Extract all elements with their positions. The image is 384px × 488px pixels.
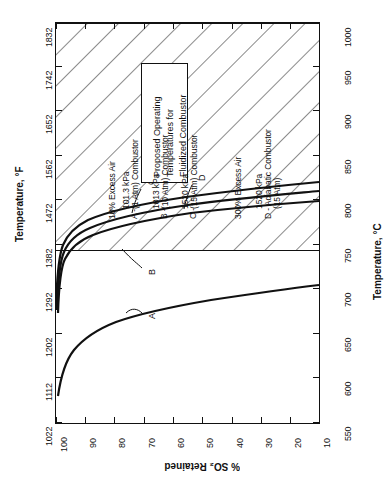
tick-f-1742 [56,66,62,67]
axis-title-fahrenheit: Temperature, °F [14,167,25,243]
ylabel-c-950: 950 [344,71,353,85]
tick-top-100 [56,23,57,29]
legend-b-line2: (10 Atm) Combustor [161,135,170,209]
xlabel-60: 60 [177,438,186,448]
leader-lines [56,23,321,425]
legend-c-prefix: C - [189,208,198,219]
ylabel-c-750: 750 [344,249,353,263]
xlabel-100: 100 [60,437,69,452]
ylabel-f-1742: 1742 [45,71,54,90]
tick-top-30 [261,23,262,29]
tick-bottom-60 [173,417,174,423]
tick-top-20 [290,23,291,29]
ylabel-c-800: 800 [344,204,353,218]
tick-top-70 [144,23,145,29]
tick-f-1112 [56,377,62,378]
legend-group2-heading: 300% Excess Air [234,157,243,219]
ylabel-c-700: 700 [344,293,353,307]
legend-c-line2: (15 Atm) Combustor [190,135,199,209]
tick-bottom-30 [261,417,262,423]
xlabel-20: 20 [294,438,303,448]
xlabel-50: 50 [206,438,215,448]
plot-frame: A B C D Proposed Operating Temperatures … [55,22,320,424]
tick-bottom-20 [290,417,291,423]
tick-top-10 [319,23,320,29]
ylabel-c-550: 550 [344,427,353,441]
annotation-line-3: Fluidized Combustor [178,94,189,177]
tick-c-800 [313,199,319,200]
legend-d-line3: (15 Atm) [273,178,282,209]
callout-b: B [147,269,157,275]
tick-bottom-90 [85,417,86,423]
ylabel-c-650: 650 [344,338,353,352]
ylabel-c-600: 600 [344,382,353,396]
tick-bottom-40 [232,417,233,423]
tick-top-50 [202,23,203,29]
xlabel-40: 40 [236,438,245,448]
ylabel-f-1382: 1382 [45,249,54,268]
ylabel-f-1652: 1652 [45,115,54,134]
tick-c-900 [313,110,319,111]
tick-f-1292 [56,288,62,289]
callout-a: A [147,313,157,319]
ylabel-c-850: 850 [344,160,353,174]
tick-c-950 [313,66,319,67]
legend-b-prefix: B - [160,208,169,219]
tick-c-600 [313,377,319,378]
ylabel-f-1202: 1202 [45,338,54,357]
axis-title-so2: % SO₂ Retained [164,461,240,472]
ylabel-c-1000: 1000 [344,28,353,47]
xlabel-90: 90 [89,438,98,448]
tick-bottom-10 [319,417,320,423]
ylabel-f-1022: 1022 [45,427,54,446]
tick-f-1472 [56,199,62,200]
ylabel-f-1832: 1832 [45,28,54,47]
legend-group1-heading: 10% Excess Air [108,161,117,219]
xlabel-10: 10 [323,438,332,448]
tick-bottom-50 [202,417,203,423]
tick-bottom-80 [114,417,115,423]
leader-a [126,309,142,313]
xlabel-70: 70 [148,438,157,448]
ylabel-f-1562: 1562 [45,160,54,179]
tick-top-90 [85,23,86,29]
tick-c-750 [313,244,319,245]
legend-a-line2: (1 Atm) Combustor [131,139,140,209]
tick-f-1562 [56,155,62,156]
tick-c-650 [313,333,319,334]
chart-root: Temperature, °F Temperature, °C % SO₂ Re… [0,0,384,488]
ylabel-c-900: 900 [344,115,353,129]
ylabel-f-1472: 1472 [45,204,54,223]
tick-f-1202 [56,333,62,334]
tick-top-60 [173,23,174,29]
tick-c-700 [313,288,319,289]
tick-f-1382 [56,244,62,245]
ylabel-f-1292: 1292 [45,293,54,312]
tick-f-1652 [56,110,62,111]
tick-top-80 [114,23,115,29]
ylabel-f-1112: 1112 [45,383,54,401]
xlabel-80: 80 [118,438,127,448]
tick-bottom-100 [56,417,57,423]
tick-bottom-70 [144,417,145,423]
xlabel-30: 30 [265,438,274,448]
axis-title-celsius: Temperature, °C [372,223,383,300]
tick-c-850 [313,155,319,156]
legend-a-prefix: A - [130,209,139,219]
tick-top-40 [232,23,233,29]
leader-b [122,249,142,268]
